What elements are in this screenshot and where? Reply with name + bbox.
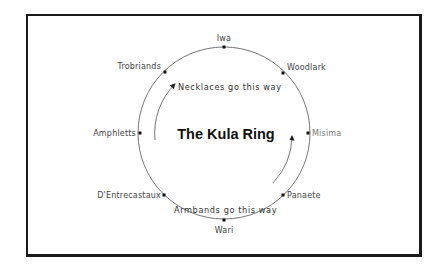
island-dot-amphletts (139, 132, 142, 135)
necklaces-flow-label: Necklaces go this way (178, 82, 282, 92)
island-dot-wari (223, 219, 226, 222)
armbands-flow-arrow (273, 136, 292, 183)
island-dot-iwa (223, 46, 226, 49)
island-dot-misima (307, 132, 310, 135)
kula-ring-diagram: Iwa Woodlark Misima Panaete Wari D'Entre… (0, 0, 438, 272)
island-label-amphletts: Amphletts (93, 129, 136, 138)
island-dot-panaete (282, 194, 285, 197)
island-label-woodlark: Woodlark (287, 63, 326, 72)
island-label-trobriands: Trobriands (116, 62, 161, 71)
island-dot-woodlark (282, 72, 285, 75)
island-dot-trobriands (164, 71, 167, 74)
island-label-misima: Misima (312, 129, 341, 138)
necklaces-flow-arrow (155, 84, 175, 140)
armbands-flow-label: Armbands go this way (174, 205, 277, 215)
island-label-iwa: Iwa (217, 34, 231, 43)
island-label-wari: Wari (215, 226, 234, 235)
island-label-dentrecastaux: D'Entrecastaux (97, 191, 161, 200)
island-dot-dentrecastaux (163, 194, 166, 197)
island-label-panaete: Panaete (287, 191, 321, 200)
diagram-title: The Kula Ring (177, 126, 274, 142)
